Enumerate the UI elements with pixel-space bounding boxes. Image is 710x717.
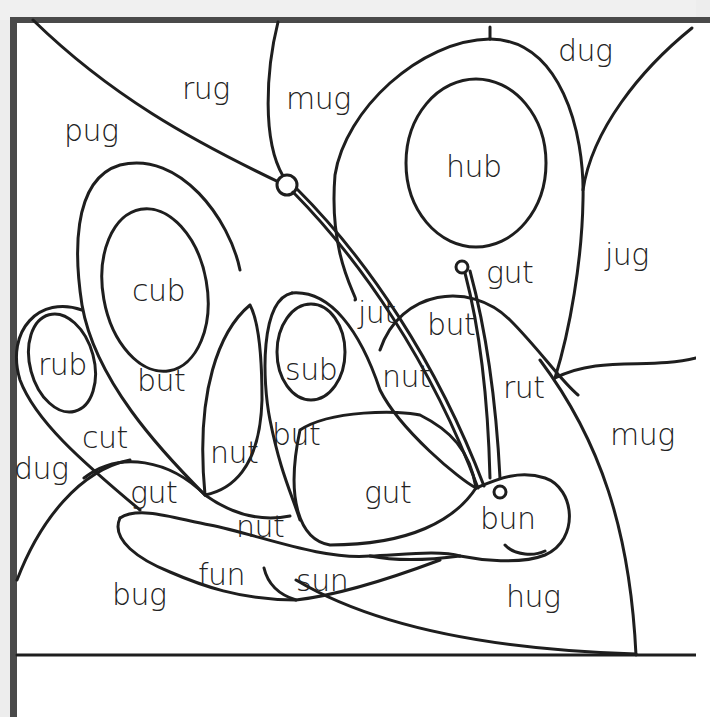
region-label[interactable]: dug <box>14 454 69 484</box>
region-label[interactable]: sub <box>285 355 337 385</box>
region-label[interactable]: mug <box>286 84 351 114</box>
region-label[interactable]: rut <box>503 373 545 403</box>
region-label[interactable]: rug <box>182 74 230 104</box>
region-label[interactable]: bun <box>480 504 536 534</box>
region-label[interactable]: nut <box>236 512 284 542</box>
region-label[interactable]: but <box>427 310 475 340</box>
region-label[interactable]: jut <box>358 298 396 328</box>
region-label[interactable]: gut <box>130 478 177 508</box>
region-label[interactable]: cub <box>132 276 185 306</box>
region-label[interactable]: cut <box>82 423 128 453</box>
region-label[interactable]: but <box>272 420 320 450</box>
region-label[interactable]: pug <box>64 116 119 146</box>
region-label[interactable]: hug <box>506 582 561 612</box>
region-label[interactable]: mug <box>610 420 675 450</box>
region-label[interactable]: bug <box>112 580 167 610</box>
region-label[interactable]: sun <box>296 566 348 596</box>
region-label[interactable]: nut <box>210 438 258 468</box>
region-label[interactable]: gut <box>486 258 533 288</box>
region-label[interactable]: fun <box>198 560 245 590</box>
region-label[interactable]: hub <box>446 152 502 182</box>
region-label[interactable]: gut <box>364 478 411 508</box>
region-label[interactable]: dug <box>558 36 613 66</box>
region-label[interactable]: nut <box>382 362 430 392</box>
region-label[interactable]: jug <box>605 240 649 270</box>
region-label[interactable]: rub <box>38 350 87 380</box>
region-label[interactable]: but <box>137 366 185 396</box>
